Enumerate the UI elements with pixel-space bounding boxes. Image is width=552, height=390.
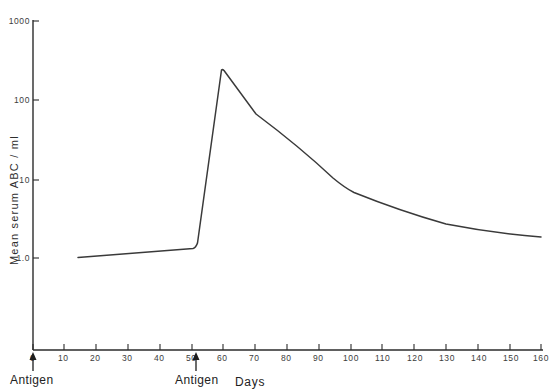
x-tick-label-10: 10 — [58, 353, 69, 363]
semilog-line-chart: 1000 100 10 1.0 Mean serum ABC / ml — [0, 0, 552, 390]
x-tick-label-90: 90 — [313, 353, 324, 363]
y-tick-label-1000: 1000 — [9, 16, 30, 26]
x-tick-label-70: 70 — [249, 353, 260, 363]
y-tick-label-100: 100 — [14, 95, 30, 105]
x-tick-label-150: 150 — [503, 353, 519, 363]
x-tick-label-60: 60 — [217, 353, 228, 363]
x-tick-label-100: 100 — [343, 353, 359, 363]
x-axis-ticks — [33, 344, 541, 350]
x-tick-label-120: 120 — [407, 353, 423, 363]
x-tick-label-40: 40 — [154, 353, 165, 363]
x-tick-label-160: 160 — [533, 353, 549, 363]
chart-page: 1000 100 10 1.0 Mean serum ABC / ml — [0, 0, 552, 390]
antigen-label-first: Antigen — [10, 373, 54, 387]
x-tick-label-30: 30 — [122, 353, 133, 363]
x-tick-label-110: 110 — [375, 353, 390, 363]
y-axis-ticks — [33, 21, 39, 258]
x-tick-label-80: 80 — [281, 353, 292, 363]
y-tick-label-10: 10 — [19, 175, 30, 185]
x-axis-title: Days — [235, 375, 265, 389]
y-axis-title: Mean serum ABC / ml — [8, 135, 20, 265]
antigen-label-second: Antigen — [175, 373, 219, 387]
x-tick-label-130: 130 — [439, 353, 455, 363]
x-tick-label-20: 20 — [90, 353, 101, 363]
antibody-response-curve — [78, 70, 541, 258]
x-tick-label-140: 140 — [471, 353, 487, 363]
